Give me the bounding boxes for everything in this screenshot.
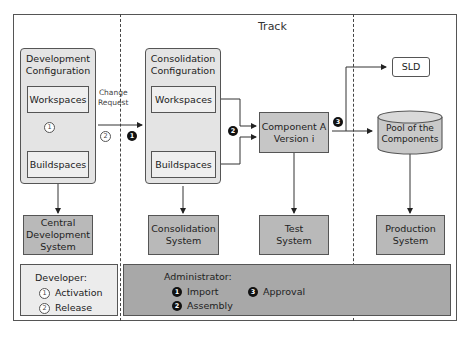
legend-item-release: 2 Release [39, 302, 92, 314]
consolidation-system: Consolidation System [148, 215, 219, 255]
component-a-box: Component A Version i [259, 112, 329, 153]
step-2-release-icon: 2 [100, 131, 111, 142]
step-1-import-icon: 1 [127, 131, 137, 141]
step-1-activation-icon: 1 [44, 122, 55, 133]
black-circled-3-icon: 3 [248, 287, 258, 297]
legend-item-import: 1 Import [172, 286, 219, 298]
admin-legend-title: Administrator: [164, 271, 232, 283]
consolidation-line2: System [166, 235, 201, 247]
black-circled-2-icon: 2 [172, 301, 182, 311]
test-system: Test System [259, 215, 329, 255]
change-request-line2: Request [98, 98, 128, 108]
consolidation-line1: Consolidation [151, 223, 216, 235]
pool-line2: Components [377, 134, 443, 145]
dev-workspaces-label: Workspaces [30, 94, 87, 106]
dev-config-title-2: Configuration [26, 65, 90, 77]
import-label: Import [187, 286, 219, 298]
step-2-assembly-icon: 2 [228, 126, 238, 136]
central-line3: System [40, 241, 75, 253]
activation-label: Activation [55, 287, 103, 299]
sld-label: SLD [402, 61, 421, 73]
dev-buildspaces-box: Buildspaces [27, 151, 89, 178]
approval-label: Approval [263, 286, 305, 297]
dev-workspaces-box: Workspaces [27, 86, 89, 113]
change-request-label: Change Request [98, 88, 128, 108]
dev-config-title-1: Development [26, 53, 90, 65]
cons-workspaces-box: Workspaces [151, 86, 216, 113]
central-development-system: Central Development System [23, 215, 93, 255]
test-line2: System [276, 235, 311, 247]
production-line1: Production [385, 223, 436, 235]
release-label: Release [55, 302, 92, 314]
production-line2: System [393, 235, 428, 247]
circled-1-icon: 1 [39, 288, 50, 299]
cons-config-title-1: Consolidation [151, 53, 216, 65]
sld-box: SLD [392, 57, 430, 77]
black-circled-1-icon: 1 [172, 287, 182, 297]
cons-workspaces-label: Workspaces [155, 94, 212, 106]
legend-item-assembly: 2 Assembly [172, 300, 233, 312]
central-line1: Central [41, 217, 76, 229]
developer-legend: Developer: 1 Activation 2 Release [20, 264, 118, 316]
pool-label: Pool of the Components [377, 123, 443, 145]
legend-item-approval: 3 Approval [248, 286, 305, 297]
cons-buildspaces-label: Buildspaces [155, 159, 212, 171]
developer-legend-title: Developer: [35, 272, 87, 284]
step-3-approval-icon: 3 [333, 117, 343, 127]
central-line2: Development [26, 229, 90, 241]
component-line2: Version i [274, 133, 315, 145]
pool-line1: Pool of the [377, 123, 443, 134]
legend-item-activation: 1 Activation [39, 287, 103, 299]
cons-buildspaces-box: Buildspaces [151, 151, 216, 178]
assembly-label: Assembly [187, 300, 233, 312]
production-system: Production System [376, 215, 445, 255]
component-line1: Component A [262, 121, 327, 133]
dev-buildspaces-label: Buildspaces [30, 159, 87, 171]
test-line1: Test [285, 223, 304, 235]
cons-config-title-2: Configuration [151, 65, 215, 77]
circled-2-icon: 2 [39, 303, 50, 314]
change-request-line1: Change [98, 88, 128, 98]
